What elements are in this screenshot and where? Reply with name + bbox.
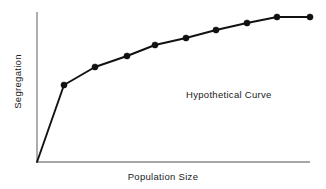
data-point-marker	[274, 14, 280, 20]
data-point-marker	[152, 42, 158, 48]
data-point-marker	[124, 53, 130, 59]
data-point-marker	[61, 82, 67, 88]
data-point-marker	[92, 64, 98, 70]
data-point-marker	[213, 27, 219, 33]
y-axis-label: Segregation	[12, 54, 23, 109]
chart-plot-area	[0, 0, 326, 189]
data-point-marker	[307, 14, 313, 20]
chart-figure: Segregation Population Size Hypothetical…	[0, 0, 326, 189]
curve-annotation-label: Hypothetical Curve	[186, 89, 272, 100]
y-axis-label-container: Segregation	[9, 0, 25, 162]
x-axis-label: Population Size	[0, 171, 326, 182]
data-series-hypothetical-curve	[37, 14, 313, 162]
data-point-marker	[183, 35, 189, 41]
data-point-marker	[244, 20, 250, 26]
